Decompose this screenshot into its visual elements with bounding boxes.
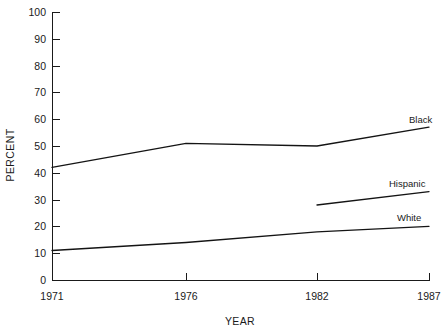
y-tick-label-0: 0 [40, 274, 46, 286]
y-tick-label-100: 100 [28, 6, 46, 18]
y-tick-label-30: 30 [34, 194, 46, 206]
y-tick-label-60: 60 [34, 113, 46, 125]
series-label-hispanic: Hispanic [389, 178, 426, 189]
y-tick-label-40: 40 [34, 167, 46, 179]
x-axis-title: YEAR [225, 315, 255, 327]
x-tick-label-1976: 1976 [174, 290, 198, 302]
chart-background [0, 0, 447, 336]
x-tick-label-1987: 1987 [417, 290, 441, 302]
chart-canvas: 100 90 80 70 60 50 40 30 20 10 0 1971 19… [0, 0, 447, 336]
y-tick-label-50: 50 [34, 140, 46, 152]
y-tick-label-90: 90 [34, 33, 46, 45]
series-label-white: White [397, 212, 421, 223]
y-axis-title: PERCENT [4, 128, 16, 181]
y-tick-label-70: 70 [34, 86, 46, 98]
line-chart: 100 90 80 70 60 50 40 30 20 10 0 1971 19… [0, 0, 447, 336]
x-tick-label-1982: 1982 [305, 290, 329, 302]
x-tick-label-1971: 1971 [40, 290, 64, 302]
y-tick-label-80: 80 [34, 60, 46, 72]
y-tick-label-20: 20 [34, 220, 46, 232]
y-tick-label-10: 10 [34, 247, 46, 259]
series-label-black: Black [409, 114, 432, 125]
